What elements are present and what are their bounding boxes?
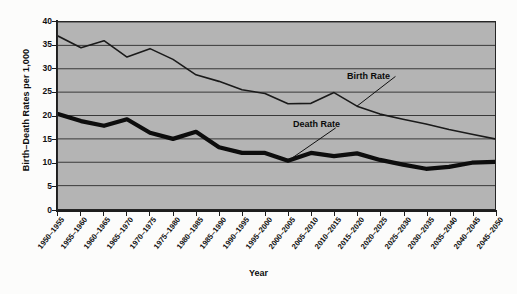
plot-svg bbox=[58, 22, 495, 209]
y-tick-label: 20 bbox=[26, 111, 52, 120]
y-tick-label: 0 bbox=[26, 206, 52, 215]
x-axis-title: Year bbox=[0, 268, 517, 278]
plot-area bbox=[57, 21, 496, 210]
y-tick-label: 35 bbox=[26, 40, 52, 49]
y-tick-mark bbox=[52, 92, 56, 93]
y-axis-tick-labels: 0510152025303540 bbox=[20, 0, 52, 294]
birth-death-rate-line-chart: Birth–Death Rates per 1,000 051015202530… bbox=[0, 0, 517, 294]
x-tick-mark bbox=[196, 211, 197, 216]
y-tick-mark bbox=[52, 210, 56, 211]
series-line-birth-rate bbox=[58, 36, 495, 139]
y-tick-mark bbox=[52, 186, 56, 187]
y-tick-label: 10 bbox=[26, 158, 52, 167]
y-tick-mark bbox=[52, 116, 56, 117]
y-tick-label: 5 bbox=[26, 182, 52, 191]
y-tick-label: 15 bbox=[26, 135, 52, 144]
annotation-death-rate: Death Rate bbox=[293, 119, 340, 129]
x-axis-line bbox=[56, 210, 497, 212]
y-tick-mark bbox=[52, 68, 56, 69]
y-tick-label: 40 bbox=[26, 17, 52, 26]
y-tick-label: 30 bbox=[26, 64, 52, 73]
x-tick-mark bbox=[173, 211, 174, 216]
y-tick-mark bbox=[52, 45, 56, 46]
annotation-birth-rate: Birth Rate bbox=[347, 71, 390, 81]
y-tick-mark bbox=[52, 21, 56, 22]
y-tick-label: 25 bbox=[26, 87, 52, 96]
x-tick-mark bbox=[427, 211, 428, 216]
series-line-death-rate bbox=[58, 114, 495, 169]
y-tick-mark bbox=[52, 139, 56, 140]
y-tick-mark bbox=[52, 163, 56, 164]
x-tick-mark bbox=[404, 211, 405, 216]
